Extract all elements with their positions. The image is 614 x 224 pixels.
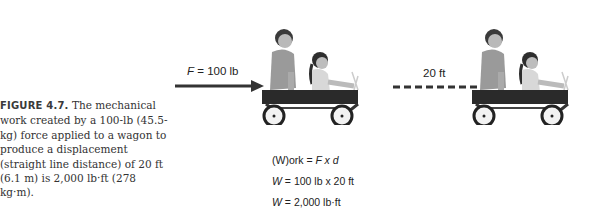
- distance-label: 20 ft: [423, 67, 445, 79]
- figure-number: FIGURE 4.7.: [0, 100, 69, 111]
- figure-caption: FIGURE 4.7. The mechanical work created …: [0, 98, 172, 200]
- eq-lhs: W: [272, 196, 282, 208]
- eq-rhs: F x d: [315, 154, 338, 166]
- force-label: F = 100 lb: [187, 65, 238, 77]
- wagon-with-children-start: [262, 10, 402, 125]
- eq-rhs: = 100 lb x 20 ft: [282, 175, 354, 187]
- displacement-dashed-line: [393, 84, 483, 90]
- force-value: = 100 lb: [194, 65, 238, 77]
- eq-lhs: (W)ork: [272, 154, 304, 166]
- force-arrow: [175, 80, 265, 92]
- force-symbol: F: [187, 65, 194, 77]
- equation-substitution: W = 100 lb x 20 ft: [272, 175, 354, 187]
- equation-work-definition: (W)ork = F x d: [272, 154, 339, 166]
- equation-result: W = 2,000 lb·ft: [272, 196, 341, 208]
- caption-text: The mechanical work created by a 100-lb …: [0, 99, 168, 198]
- eq-lhs: W: [272, 175, 282, 187]
- eq-equals: =: [304, 154, 316, 166]
- eq-rhs: = 2,000 lb·ft: [282, 196, 341, 208]
- wagon-with-children-end: [472, 10, 612, 125]
